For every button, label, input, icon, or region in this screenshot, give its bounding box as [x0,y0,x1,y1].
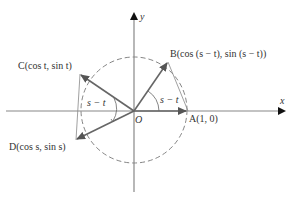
point-b-label: B(cos (s − t), sin (s − t)) [170,48,266,60]
point-a-label: A(1, 0) [189,113,218,125]
angle-arc-aob [148,91,159,111]
angle-arc-cod [113,98,116,121]
origin-label: O [135,114,142,125]
angle-aob-label: s − t [160,94,179,105]
y-axis-label: y [139,11,145,22]
x-axis-label: x [279,95,285,106]
point-c-label: C(cos t, sin t) [18,60,72,72]
vector-od [77,111,134,139]
point-d-label: D(cos s, sin s) [9,141,66,153]
chord-cd [76,74,80,140]
angle-cod-label: s − t [87,97,106,108]
unit-circle-diagram: y x O A(1, 0) B(cos (s − t), sin (s − t)… [0,0,293,205]
